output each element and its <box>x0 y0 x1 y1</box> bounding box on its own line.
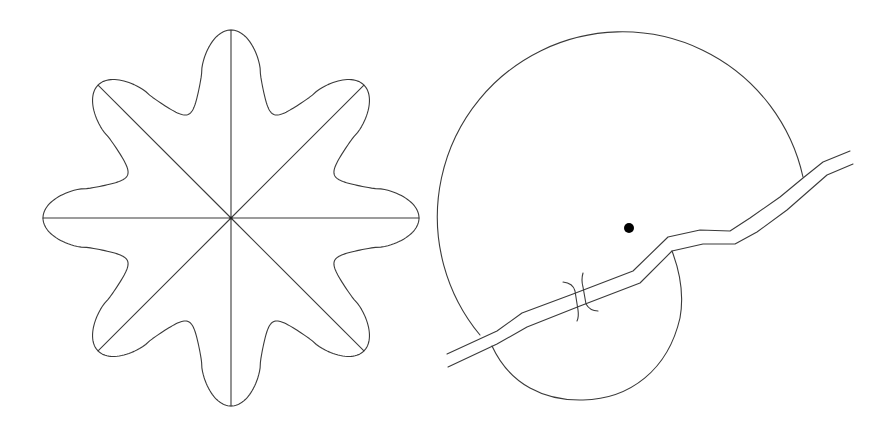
region-boundary-upper <box>437 32 803 335</box>
river-bank-lower <box>448 164 853 367</box>
bridge-icon <box>563 273 598 321</box>
diagram-canvas <box>0 0 896 432</box>
river-bank-upper <box>447 151 850 354</box>
region-figure <box>437 32 853 400</box>
star-center-point <box>229 216 232 219</box>
star-figure <box>43 30 419 406</box>
location-dot <box>624 223 634 233</box>
region-boundary-lower-lobe <box>492 251 682 400</box>
